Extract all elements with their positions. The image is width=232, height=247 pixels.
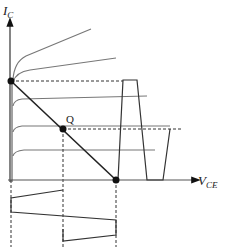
- curve-ib-2: [13, 126, 170, 132]
- curve-ib-5: [13, 29, 91, 80]
- y-axis-label: IC: [2, 3, 14, 20]
- q-point-label: Q: [66, 113, 74, 125]
- output-waveform: [118, 80, 170, 180]
- input-waveform: [11, 190, 116, 241]
- x-axis-label: VCE: [198, 173, 218, 190]
- characteristic-curves: [13, 29, 170, 156]
- cutoff-point: [113, 177, 120, 184]
- saturation-point: [8, 78, 15, 85]
- load-line-diagram: IC VCE Q: [0, 0, 232, 247]
- curve-ib-4: [13, 58, 116, 82]
- q-point: [60, 126, 67, 133]
